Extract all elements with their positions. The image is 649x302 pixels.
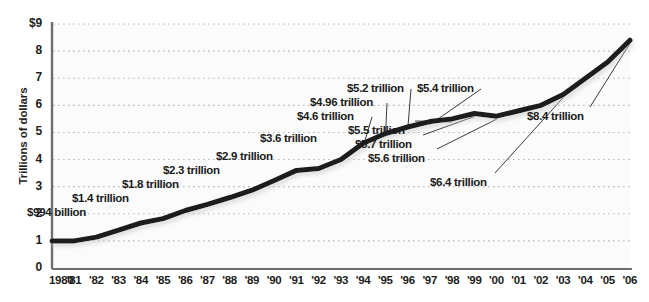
x-tick-label: '93 <box>334 274 349 286</box>
y-tick-label: 3 <box>8 179 42 193</box>
x-tick-label: '86 <box>178 274 193 286</box>
y-tick-label: 5 <box>8 124 42 138</box>
y-tick-label: 4 <box>8 152 42 166</box>
x-tick-label: '99 <box>467 274 482 286</box>
x-tick-label: '91 <box>289 274 304 286</box>
x-tick-label: '87 <box>200 274 215 286</box>
x-tick-label: '85 <box>156 274 171 286</box>
data-point-annotation: $2.3 trillion <box>163 164 220 176</box>
x-tick-label: '00 <box>489 274 504 286</box>
x-tick-label: '82 <box>89 274 104 286</box>
y-tick-label: 6 <box>8 97 42 111</box>
x-tick-label: '97 <box>422 274 437 286</box>
y-tick-label: 7 <box>8 70 42 84</box>
y-tick-label: $9 <box>8 16 42 30</box>
data-point-annotation: $5.2 trillion <box>347 82 404 94</box>
data-point-annotation: $5.7 trillion <box>355 138 412 150</box>
data-point-annotation: $2.9 trillion <box>216 150 273 162</box>
data-point-annotation: $994 billion <box>27 206 86 218</box>
data-point-annotation: $6.4 trillion <box>430 176 487 188</box>
plot-background <box>52 24 630 269</box>
x-tick-label: '83 <box>111 274 126 286</box>
x-tick-label: '95 <box>378 274 393 286</box>
x-tick-label: '03 <box>556 274 571 286</box>
data-point-annotation: $1.8 trillion <box>122 178 179 190</box>
data-point-annotation: $5.4 trillion <box>417 82 474 94</box>
data-point-annotation: $4.96 trillion <box>310 96 373 108</box>
line-chart: Trillions of dollars $9876543210 1980'81… <box>0 0 649 302</box>
data-point-annotation: $3.6 trillion <box>260 132 317 144</box>
x-tick-label: '89 <box>245 274 260 286</box>
x-tick-label: '90 <box>267 274 282 286</box>
data-point-annotation: $8.4 trillion <box>527 110 584 122</box>
x-tick-label: '98 <box>445 274 460 286</box>
y-tick-label: 1 <box>8 233 42 247</box>
y-tick-label: 8 <box>8 43 42 57</box>
x-tick-label: '02 <box>534 274 549 286</box>
data-point-annotation: $4.6 trillion <box>297 110 354 122</box>
x-tick-label: '94 <box>356 274 371 286</box>
x-tick-label: '04 <box>578 274 593 286</box>
x-tick-label: '96 <box>400 274 415 286</box>
data-point-annotation: $5.6 trillion <box>368 152 425 164</box>
x-tick-label: '92 <box>311 274 326 286</box>
x-tick-label: '84 <box>133 274 148 286</box>
data-point-annotation: $5.5 trillion <box>348 124 405 136</box>
y-tick-label: 0 <box>8 260 42 274</box>
x-tick-label: '81 <box>67 274 82 286</box>
x-tick-label: '01 <box>511 274 526 286</box>
x-tick-label: '05 <box>600 274 615 286</box>
data-point-annotation: $1.4 trillion <box>72 192 129 204</box>
chart-canvas <box>0 0 649 302</box>
x-tick-label: '88 <box>222 274 237 286</box>
x-tick-label: '06 <box>623 274 638 286</box>
